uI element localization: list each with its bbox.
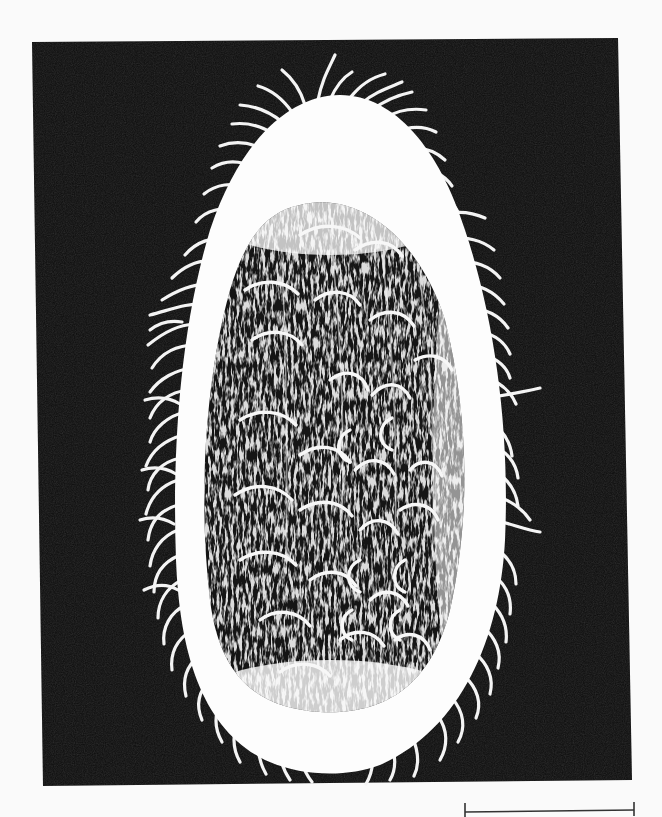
scale-bar (465, 802, 634, 817)
micrograph-figure (0, 0, 662, 817)
